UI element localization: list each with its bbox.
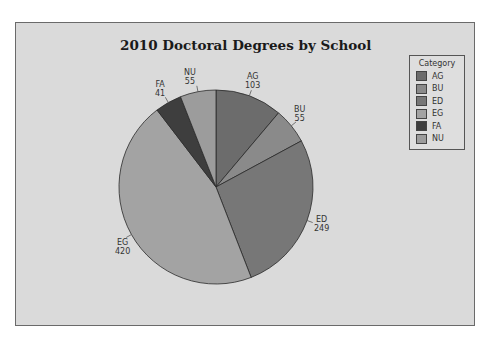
label-nu: NU55 (184, 68, 196, 86)
pie-chart (0, 0, 492, 344)
label-bu: BU55 (294, 105, 305, 123)
label-ed: ED249 (314, 215, 329, 233)
pie-slices (119, 90, 313, 284)
label-eg: EG420 (115, 238, 130, 256)
label-fa: FA41 (155, 80, 165, 98)
label-ag: AG103 (245, 72, 260, 90)
